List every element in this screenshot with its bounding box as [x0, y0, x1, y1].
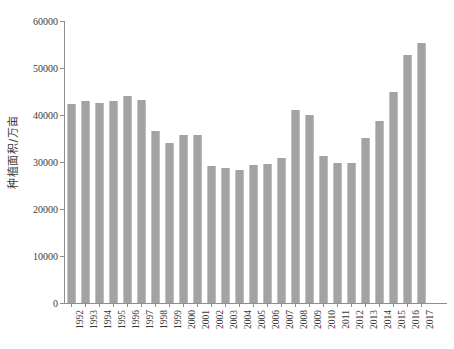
- x-tick-mark: [281, 304, 282, 307]
- bar: [333, 163, 342, 303]
- x-tick-mark: [71, 304, 72, 307]
- x-tick-mark: [407, 304, 408, 307]
- bar: [109, 101, 118, 303]
- x-tick-label: 1999: [173, 310, 183, 329]
- bar: [221, 168, 230, 303]
- x-tick-mark: [183, 304, 184, 307]
- x-axis-tick-labels: 1992199319941995199619971998199920002001…: [65, 304, 447, 349]
- bar: [193, 135, 202, 303]
- bar: [389, 92, 398, 303]
- bar: [347, 163, 356, 303]
- y-axis-title-label: 种植面积/万亩: [4, 115, 20, 188]
- x-tick-mark: [365, 304, 366, 307]
- bar-slot: [303, 21, 317, 303]
- bar-slot: [79, 21, 93, 303]
- bar-slot: [65, 21, 79, 303]
- y-tick-label: 10000: [33, 251, 58, 262]
- x-tick-label: 1994: [103, 310, 113, 329]
- y-axis-tick-labels: 0100002000030000400005000060000: [22, 0, 64, 349]
- bar: [235, 170, 244, 303]
- y-tick-label: 0: [53, 298, 58, 309]
- bar-slot: [275, 21, 289, 303]
- bar-slot: [191, 21, 205, 303]
- x-tick-mark: [337, 304, 338, 307]
- bar-slot: [135, 21, 149, 303]
- y-tick-mark: [60, 256, 64, 257]
- x-tick-mark: [169, 304, 170, 307]
- x-tick-label: 2012: [355, 310, 365, 329]
- x-tick-mark: [393, 304, 394, 307]
- x-tick-label: 2009: [313, 310, 323, 329]
- x-tick-label: 2014: [383, 310, 393, 329]
- x-tick-mark: [421, 304, 422, 307]
- y-tick-label: 30000: [33, 157, 58, 168]
- x-tick-mark: [211, 304, 212, 307]
- x-tick-label: 1992: [75, 310, 85, 329]
- x-tick-label: 2007: [285, 310, 295, 329]
- x-tick-label: 2008: [299, 310, 309, 329]
- bar-slot: [93, 21, 107, 303]
- x-tick-mark: [127, 304, 128, 307]
- x-tick-mark: [155, 304, 156, 307]
- x-tick-label: 2011: [341, 310, 351, 329]
- x-tick-label: 2015: [397, 310, 407, 329]
- bar-slot: [317, 21, 331, 303]
- bar-slot: [289, 21, 303, 303]
- x-tick-mark: [197, 304, 198, 307]
- x-tick-label: 2017: [425, 310, 435, 329]
- bar-slot: [373, 21, 387, 303]
- bar: [305, 115, 314, 303]
- x-tick-label: 2002: [215, 310, 225, 329]
- x-tick-label: 2005: [257, 310, 267, 329]
- bar: [179, 135, 188, 303]
- bar-chart: 种植面积/万亩 0100002000030000400005000060000 …: [0, 0, 454, 349]
- bar-slot: [387, 21, 401, 303]
- bar-slot: [345, 21, 359, 303]
- bar: [403, 55, 412, 303]
- x-tick-mark: [225, 304, 226, 307]
- x-tick-label: 1996: [131, 310, 141, 329]
- bar: [291, 110, 300, 303]
- bar: [207, 166, 216, 303]
- x-tick-mark: [141, 304, 142, 307]
- y-tick-mark: [60, 209, 64, 210]
- bar-slot: [149, 21, 163, 303]
- bar: [81, 101, 90, 303]
- bar: [375, 121, 384, 303]
- x-tick-mark: [309, 304, 310, 307]
- bar: [95, 103, 104, 303]
- bar: [277, 158, 286, 303]
- x-tick-mark: [85, 304, 86, 307]
- x-tick-label: 1998: [159, 310, 169, 329]
- y-axis-title: 种植面积/万亩: [0, 0, 24, 303]
- x-tick-mark: [323, 304, 324, 307]
- x-tick-mark: [295, 304, 296, 307]
- y-tick-label: 20000: [33, 204, 58, 215]
- y-tick-mark: [60, 162, 64, 163]
- bar: [165, 143, 174, 303]
- y-tick-mark: [60, 303, 64, 304]
- y-tick-mark: [60, 68, 64, 69]
- x-tick-label: 2000: [187, 310, 197, 329]
- x-tick-mark: [113, 304, 114, 307]
- bar-slot: [247, 21, 261, 303]
- bar: [417, 43, 426, 303]
- y-tick-label: 50000: [33, 63, 58, 74]
- x-tick-label: 2013: [369, 310, 379, 329]
- bar: [123, 96, 132, 303]
- bar-slot: [219, 21, 233, 303]
- x-tick-label: 2016: [411, 310, 421, 329]
- bar: [151, 131, 160, 303]
- bar-slot: [121, 21, 135, 303]
- bar: [67, 104, 76, 303]
- x-tick-label: 2003: [229, 310, 239, 329]
- x-tick-label: 1993: [89, 310, 99, 329]
- bar-slot: [205, 21, 219, 303]
- bar: [263, 164, 272, 303]
- x-tick-label: 2010: [327, 310, 337, 329]
- x-tick-mark: [267, 304, 268, 307]
- bar-slot: [261, 21, 275, 303]
- x-tick-label: 2004: [243, 310, 253, 329]
- bar: [249, 165, 258, 303]
- bar-slot: [331, 21, 345, 303]
